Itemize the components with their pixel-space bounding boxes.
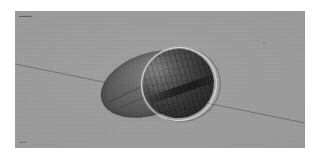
- top-left-annotation-label: ▬▬▬: [19, 13, 32, 18]
- render-viewport-frame: ▬▬▬ ▬▬: [0, 0, 320, 160]
- dust-speck-artifact: [263, 42, 265, 44]
- ellipsoid-solid-group: [99, 47, 225, 121]
- bottom-left-annotation-label: ▬▬: [19, 139, 27, 144]
- render-canvas: ▬▬▬ ▬▬: [15, 11, 305, 148]
